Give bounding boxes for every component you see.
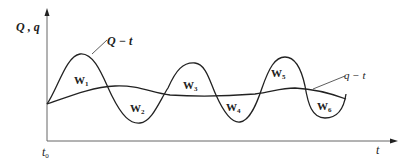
region-label-sub: 5: [282, 73, 286, 81]
region-w4-label: W4: [226, 102, 241, 115]
region-w5-label: W5: [271, 68, 286, 81]
region-label-sub: 3: [194, 85, 198, 93]
region-label-text: W: [74, 74, 85, 86]
region-label-sub: 1: [85, 80, 89, 88]
q-t-curve-label: q − t: [344, 70, 365, 81]
origin-label: t0: [42, 146, 49, 160]
region-label-text: W: [183, 79, 194, 91]
y-axis-label: Q , q: [16, 21, 40, 33]
Q-t-curve-label: Q − t: [107, 35, 132, 47]
region-label-sub: 4: [237, 107, 241, 115]
region-w3-label: W3: [183, 80, 198, 93]
region-label-text: W: [317, 100, 328, 112]
region-w1-label: W1: [74, 75, 89, 88]
region-label-sub: 2: [141, 108, 145, 116]
region-label-text: W: [271, 67, 282, 79]
region-w6-label: W6: [317, 101, 332, 114]
flow-diagram: Q , q t0 t Q − t q − t W1 W2 W3 W4 W5 W6: [0, 0, 410, 162]
region-w2-label: W2: [130, 103, 145, 116]
Q-t-leader-line: [92, 40, 107, 54]
q-t-leader-line: [313, 76, 345, 89]
y-axis-arrow-icon: [45, 8, 50, 16]
origin-label-sub: 0: [45, 152, 49, 160]
region-label-sub: 6: [328, 106, 332, 114]
x-axis-arrow-icon: [390, 139, 398, 144]
x-axis-label: t: [376, 144, 379, 156]
region-label-text: W: [130, 102, 141, 114]
region-label-text: W: [226, 101, 237, 113]
diagram-canvas: [0, 0, 410, 162]
